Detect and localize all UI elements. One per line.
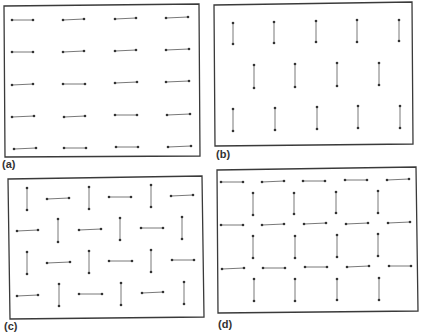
dimer-bond [167, 114, 190, 115]
dimer [303, 222, 328, 226]
atom-dot [58, 305, 61, 308]
dimer [11, 83, 35, 87]
atom-dot [78, 229, 81, 232]
dimer [166, 113, 192, 117]
atom-dot [88, 186, 91, 189]
atom-dot [336, 62, 339, 65]
atom-dot [378, 84, 381, 87]
dimer [345, 222, 370, 226]
atom-dot [193, 259, 196, 262]
dimer [11, 51, 35, 54]
dimer [108, 260, 134, 263]
dimer [114, 81, 139, 85]
atom-dot [88, 250, 91, 253]
panel-a [4, 4, 200, 157]
atom-dot [165, 81, 168, 84]
dimer [108, 196, 133, 199]
atom-dot [377, 190, 380, 193]
dimer [302, 180, 327, 183]
atom-dot [120, 304, 123, 307]
dimer-bond [63, 51, 84, 52]
atom-dot [232, 22, 235, 25]
atom-dot [11, 19, 14, 22]
atom-dot [283, 180, 286, 183]
atom-dot [26, 187, 29, 190]
atom-dot [377, 212, 380, 215]
dimer [377, 190, 380, 215]
atom-dot [13, 148, 16, 151]
dimer [26, 187, 29, 212]
atom-dot [325, 222, 328, 225]
atom-dot [120, 282, 123, 285]
dimer [88, 250, 91, 275]
atom-dot [136, 114, 139, 117]
atom-dot [114, 82, 117, 85]
atom-dot [368, 265, 371, 268]
atom-dot [252, 192, 255, 195]
atom-dot [274, 107, 277, 110]
atom-dot [221, 268, 224, 271]
dimer [141, 291, 165, 295]
dimer [252, 192, 255, 217]
atom-dot [252, 257, 255, 260]
atom-dot [114, 50, 117, 53]
atom-dot [398, 19, 401, 22]
atom-dot [336, 256, 339, 259]
atom-dot [131, 260, 134, 263]
atom-dot [398, 40, 401, 43]
atom-dot [26, 273, 29, 276]
atom-dot [316, 106, 319, 109]
atom-dot [85, 147, 88, 150]
atom-dot [150, 271, 153, 274]
dimer [150, 249, 153, 274]
atom-dot [357, 127, 360, 130]
figure-canvas [0, 0, 424, 336]
atom-dot [63, 147, 66, 150]
dimer [165, 80, 191, 84]
dimer [16, 229, 40, 233]
atom-dot [293, 192, 296, 195]
atom-dot [32, 51, 35, 54]
atom-dot [84, 83, 87, 86]
panel-frame [4, 4, 200, 157]
atom-dot [386, 179, 389, 182]
atom-dot [58, 283, 61, 286]
dimer [387, 221, 412, 225]
atom-dot [345, 223, 348, 226]
atom-dot [188, 80, 191, 83]
atom-dot [293, 213, 296, 216]
atom-dot [119, 239, 122, 242]
atom-dot [88, 272, 91, 275]
dimer [357, 105, 360, 130]
dimer [62, 83, 87, 86]
dimer [62, 18, 86, 22]
atom-dot [26, 209, 29, 212]
dimer-bond [168, 146, 191, 147]
dimer [11, 19, 35, 22]
atom-dot [262, 267, 265, 270]
atom-dot [83, 18, 86, 21]
dimer [232, 22, 235, 46]
atom-dot [367, 222, 370, 225]
atom-dot [88, 208, 91, 211]
atom-dot [356, 41, 359, 44]
dimer [261, 180, 286, 184]
atom-dot [162, 227, 165, 230]
atom-dot [356, 19, 359, 22]
dimer [356, 19, 359, 44]
dimer [114, 17, 138, 21]
atom-dot [232, 108, 235, 111]
dimer [294, 278, 297, 303]
dimer [62, 50, 86, 54]
dimer [114, 114, 139, 117]
dimer [13, 147, 38, 151]
dimer-bond [115, 18, 136, 19]
panel-d [217, 167, 418, 313]
dimer [336, 62, 339, 88]
atom-dot [187, 16, 190, 19]
atom-dot [150, 184, 153, 187]
dimer [304, 266, 329, 269]
atom-dot [183, 303, 186, 306]
dimer [88, 186, 91, 211]
dimer-bond [47, 262, 70, 263]
